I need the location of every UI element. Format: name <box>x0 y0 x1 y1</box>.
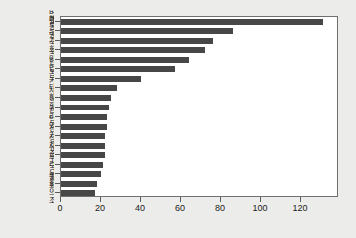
bar <box>61 124 107 130</box>
bar <box>61 114 107 120</box>
bar <box>61 190 95 196</box>
x-tick-label: 80 <box>215 203 225 213</box>
x-tick <box>60 197 61 202</box>
x-tick <box>100 197 101 202</box>
bar <box>61 85 117 91</box>
bar <box>61 76 141 82</box>
bar <box>61 105 109 111</box>
x-tick <box>180 197 181 202</box>
y-axis-labels: 법률대통령국가국회국민헌법보부기타사항의원권리임명선거정자유출무리국무원회국회의… <box>0 0 58 238</box>
bar <box>61 57 189 63</box>
y-tick-label: 국회의조 <box>47 173 55 203</box>
x-tick <box>220 197 221 202</box>
x-tick-label: 60 <box>175 203 185 213</box>
x-tick-label: 120 <box>292 203 307 213</box>
bar <box>61 66 175 72</box>
bar <box>61 143 105 149</box>
bar <box>61 181 97 187</box>
x-tick-label: 100 <box>252 203 267 213</box>
x-tick <box>300 197 301 202</box>
x-tick-label: 0 <box>57 203 62 213</box>
bar <box>61 171 101 177</box>
bar <box>61 162 103 168</box>
x-tick <box>260 197 261 202</box>
x-tick-label: 40 <box>135 203 145 213</box>
bar <box>61 38 213 44</box>
bar <box>61 19 323 25</box>
bar <box>61 95 111 101</box>
bar-series <box>61 17 337 196</box>
bar <box>61 47 205 53</box>
bar <box>61 28 233 34</box>
plot-area <box>60 16 338 197</box>
chart-figure: 법률대통령국가국회국민헌법보부기타사항의원권리임명선거정자유출무리국무원회국회의… <box>0 0 356 238</box>
bar <box>61 152 105 158</box>
x-tick-label: 20 <box>95 203 105 213</box>
bar <box>61 133 105 139</box>
x-tick <box>140 197 141 202</box>
